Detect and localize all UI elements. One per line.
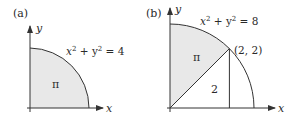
diagram-canvas: (a) y x x2 + y2 = 4 π (b) y x x2 + y2 = … <box>0 0 291 123</box>
y-axis-label: y <box>174 3 182 16</box>
triangle-area-label: 2 <box>211 83 218 96</box>
x-axis-label: x <box>106 102 113 115</box>
region-area-label: π <box>52 78 59 91</box>
panel-a: (a) y x x2 + y2 = 4 π <box>13 7 125 115</box>
equation-label: x2 + y2 = 8 <box>200 15 258 27</box>
x-axis-label: x <box>278 102 285 115</box>
panel-b-label: (b) <box>146 7 162 20</box>
sector-area-label: π <box>193 51 200 64</box>
quarter-disk-region <box>30 48 89 108</box>
sector-region <box>170 24 229 108</box>
point-label: (2, 2) <box>234 44 262 56</box>
panel-a-label: (a) <box>13 7 28 20</box>
y-axis-label: y <box>35 22 43 35</box>
equation-label: x2 + y2 = 4 <box>66 45 125 57</box>
panel-b: (b) y x x2 + y2 = 8 (2, 2) π 2 <box>146 3 285 115</box>
